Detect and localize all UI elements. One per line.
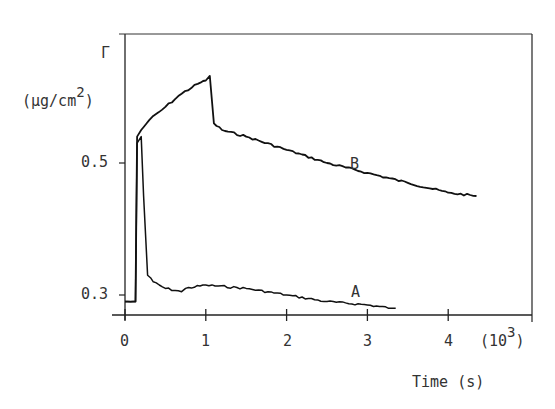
- y-axis-symbol: Γ: [101, 44, 110, 62]
- y-unit-sup: 2: [76, 84, 84, 100]
- y-tick-label-0.5: 0.5: [81, 153, 108, 171]
- x-mult-close: ): [516, 332, 525, 350]
- chart-plot: [0, 0, 555, 409]
- x-tick-label-3: 3: [363, 332, 372, 350]
- series-b-line: [125, 76, 477, 302]
- y-unit-close: ): [85, 92, 94, 110]
- curve-label-a: A: [351, 283, 360, 301]
- y-axis-unit: (µg/cm2): [22, 92, 94, 110]
- x-axis-title: Time (s): [412, 373, 484, 391]
- x-mult-main: (10: [480, 332, 507, 350]
- x-tick-label-0: 0: [120, 332, 129, 350]
- x-tick-label-4: 4: [444, 332, 453, 350]
- x-tick-label-2: 2: [283, 332, 292, 350]
- y-tick-label-0.3: 0.3: [81, 285, 108, 303]
- x-tick-label-1: 1: [201, 332, 210, 350]
- y-ticks: [119, 163, 125, 295]
- curve-label-b: B: [350, 155, 359, 173]
- x-mult-sup: 3: [507, 324, 515, 340]
- x-axis-multiplier: (103): [480, 332, 525, 350]
- y-unit-main: (µg/cm: [22, 92, 76, 110]
